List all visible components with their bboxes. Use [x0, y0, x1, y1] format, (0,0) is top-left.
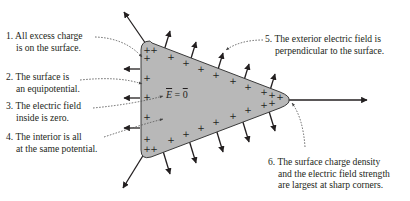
annotation-3: 3. The electric field inside is zero.: [6, 100, 81, 123]
annotation-5: 5. The exterior electric field is perpen…: [265, 33, 384, 56]
svg-text:+: +: [268, 98, 276, 108]
svg-text:+: +: [244, 82, 252, 92]
annotation-4: 4. The interior is all at the same poten…: [6, 131, 98, 154]
svg-text:+: +: [182, 58, 190, 68]
diagram-stage: +++ +++ +++ +++ +++ +++ ++ +++ +++ E = 0…: [0, 0, 410, 201]
field-vector: E: [166, 89, 172, 100]
svg-text:+: +: [260, 87, 268, 97]
annotation-2: 2. The surface is an equipotential.: [6, 71, 80, 94]
svg-text:+: +: [150, 45, 158, 55]
svg-text:+: +: [260, 100, 268, 110]
svg-text:+: +: [212, 70, 220, 80]
svg-text:+: +: [197, 123, 205, 133]
zero-vector: 0: [183, 89, 188, 100]
svg-text:+: +: [167, 52, 175, 62]
svg-text:+: +: [143, 53, 151, 63]
svg-text:+: +: [276, 92, 284, 102]
annotation-1: 1. All excess charge is on the surface.: [6, 30, 83, 53]
annotation-6: 6. The surface charge density and the el…: [268, 156, 390, 191]
svg-text:+: +: [143, 73, 151, 83]
svg-text:+: +: [143, 134, 151, 144]
svg-text:+: +: [182, 129, 190, 139]
svg-text:+: +: [229, 76, 237, 86]
interior-field-label: E = 0: [166, 89, 188, 100]
equals-sign: =: [175, 89, 181, 100]
svg-text:+: +: [244, 105, 252, 115]
svg-text:+: +: [143, 112, 151, 122]
svg-text:+: +: [197, 64, 205, 74]
svg-text:+: +: [150, 144, 158, 154]
svg-text:+: +: [229, 111, 237, 121]
svg-text:+: +: [167, 135, 175, 145]
svg-text:+: +: [212, 117, 220, 127]
